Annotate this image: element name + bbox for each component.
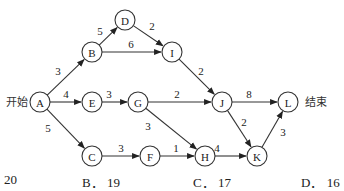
node-B: B [82,42,102,62]
answer-options: 20 B． 19 C． 17 D． 16 [0,172,344,190]
edge-weight-D-I: 2 [149,20,155,32]
network-diagram: 3455622323314823 ABDIEGJLCFHK 开始 结束 [0,0,344,191]
node-label: L [285,97,292,109]
edge-weight-E-G: 3 [106,88,112,100]
node-label: A [36,97,44,109]
start-label: 开始 [6,95,28,109]
node-L: L [278,92,298,112]
edge-weight-J-L: 8 [246,88,252,100]
node-label: E [89,97,96,109]
edge-weight-B-D: 5 [97,25,103,37]
node-K: K [247,146,267,166]
weights-layer: 3455622323314823 [45,20,286,154]
option-b[interactable]: B． 19 [82,172,120,191]
edge-I-J [179,59,214,94]
node-J: J [212,92,232,112]
node-label: F [147,151,153,163]
option-c[interactable]: C． 17 [193,172,231,191]
node-label: G [134,97,142,109]
node-label: H [201,151,209,163]
node-label: I [170,47,174,59]
node-label: C [88,151,95,163]
edge-weight-K-L: 3 [280,126,286,138]
edge-weight-G-J: 2 [174,88,180,100]
edge-J-K [227,110,251,146]
node-H: H [195,146,215,166]
edge-weight-F-H: 1 [173,142,179,154]
node-label: B [88,47,95,59]
node-I: I [162,42,182,62]
node-label: K [253,151,261,163]
node-F: F [140,146,160,166]
edge-weight-B-I: 6 [128,38,134,50]
end-label: 结束 [305,96,327,109]
node-label: J [220,97,225,109]
edge-weight-C-F: 3 [118,142,124,154]
node-D: D [115,10,135,30]
node-G: G [128,92,148,112]
edge-weight-A-B: 3 [55,65,61,77]
node-label: D [121,15,129,27]
edge-weight-I-J: 2 [198,65,204,77]
edge-weight-A-C: 5 [45,122,51,134]
option-a[interactable]: 20 [4,172,17,188]
edge-D-I [133,26,163,46]
option-d[interactable]: D． 16 [301,172,340,191]
edge-weight-H-K: 4 [214,142,220,154]
node-C: C [82,146,102,166]
nodes-layer: ABDIEGJLCFHK [30,10,298,166]
node-A: A [30,92,50,112]
node-E: E [82,92,102,112]
edge-G-H [146,108,197,149]
edge-weight-J-K: 2 [241,116,247,128]
edge-weight-G-H: 3 [145,120,151,132]
edge-A-C [47,109,84,148]
edge-weight-A-E: 4 [63,88,69,100]
